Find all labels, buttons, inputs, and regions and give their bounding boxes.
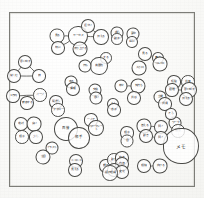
concept-node-label: 相槌	[142, 165, 147, 168]
concept-node-label: 目	[126, 140, 128, 143]
concept-node-label: 良い	[32, 123, 37, 126]
concept-node-label: ページ	[36, 94, 43, 97]
concept-node[interactable]: 少し	[29, 130, 43, 144]
concept-node-label: 聞く	[159, 137, 164, 140]
concept-node-label: ツルコミ	[155, 63, 165, 66]
concept-node-label: 遊園地	[95, 65, 102, 68]
concept-node[interactable]: 散歩する	[20, 96, 34, 110]
concept-node-label: 様々	[119, 85, 124, 88]
concept-node-label: 少し	[34, 136, 39, 139]
concept-node-label: 楽しむ	[10, 75, 17, 78]
concept-node[interactable]: 遣かい	[81, 19, 95, 33]
concept-node-label: 共感	[132, 97, 137, 100]
concept-node-label: 何も	[83, 65, 88, 68]
concept-node-label: 遣かい	[84, 25, 91, 28]
concept-node-label: 夢中	[131, 33, 136, 36]
concept-node-label: 入り口	[135, 67, 142, 70]
concept-node[interactable]: 相手	[15, 130, 29, 144]
concept-node[interactable]: ツルコミ	[153, 57, 168, 72]
concept-node[interactable]: 様々	[115, 80, 128, 93]
concept-node-label: 向ける	[156, 165, 163, 168]
concept-node[interactable]: 動き	[139, 129, 153, 143]
concept-node-label: ワークシート	[90, 125, 103, 131]
concept-node-label: そう	[169, 113, 174, 116]
concept-node[interactable]: 聞く	[154, 131, 168, 145]
concept-node-label: 相手	[20, 136, 25, 139]
concept-node-label: 答える	[140, 125, 147, 128]
concept-node-label: 息子	[112, 109, 117, 112]
concept-node-label: 盛り上げる	[74, 48, 86, 51]
concept-node-label: 思い出す	[184, 89, 194, 92]
concept-node-label: 共通	[163, 103, 168, 106]
concept-node[interactable]: 相槌	[137, 159, 151, 173]
concept-node[interactable]: 盛り上げる	[73, 42, 88, 57]
concept-node-label: 動す	[115, 38, 120, 41]
concept-node[interactable]: メモ	[163, 128, 199, 164]
concept-node-label: ねに	[130, 41, 135, 44]
concept-node[interactable]: 話題	[165, 83, 179, 97]
concept-node[interactable]: 共感	[127, 91, 141, 105]
concept-node-label: サーカス	[73, 35, 83, 38]
concept-map-canvas: 見るサーカス伝える遣かい特に盛り上げる誘う動す夢中ねに見る高々ツルコミ入り口する…	[0, 0, 204, 198]
concept-node-label: イラスト	[47, 147, 57, 150]
concept-node[interactable]: 遊園地	[90, 57, 108, 75]
concept-node[interactable]: 相手	[68, 127, 90, 149]
concept-node-label: 変化	[120, 171, 125, 174]
concept-node-label: 面接	[63, 127, 70, 130]
concept-node[interactable]: 思い出す	[18, 55, 32, 69]
concept-node-label: 相手	[76, 136, 83, 139]
concept-node[interactable]: 見える	[68, 163, 82, 177]
concept-node-label: 思い出す	[20, 61, 30, 64]
concept-node-label: 特に	[56, 47, 61, 50]
concept-node-label: 見る	[143, 53, 148, 56]
concept-node-label: フォロー	[53, 109, 63, 112]
concept-node[interactable]: 特に	[51, 41, 65, 55]
concept-node[interactable]: フォロー	[51, 103, 65, 117]
concept-node[interactable]: 思い	[90, 92, 103, 105]
concept-node-label: 話題	[170, 89, 175, 92]
concept-node[interactable]: 娘	[32, 69, 46, 83]
concept-node[interactable]: そう	[165, 108, 177, 120]
concept-node-label: 見える	[71, 169, 78, 172]
concept-node[interactable]: ページ	[33, 88, 47, 102]
concept-node[interactable]: 向ける	[153, 159, 168, 174]
concept-node[interactable]: 息子	[107, 103, 121, 117]
concept-node[interactable]: 伝える	[93, 29, 109, 45]
concept-node[interactable]: 見る	[138, 47, 152, 61]
concept-node[interactable]: 注目	[36, 150, 51, 165]
concept-node[interactable]: 情報	[66, 82, 80, 96]
concept-node-label: 1万円	[10, 95, 16, 98]
concept-node-label: 娘	[38, 75, 40, 78]
concept-node[interactable]: ワークシート	[88, 120, 104, 136]
concept-node-label: 絶対	[19, 123, 24, 126]
concept-node-label: 動き	[144, 135, 149, 138]
concept-node[interactable]: 楽しむ	[7, 69, 21, 83]
concept-node-label: 聞く	[159, 126, 164, 129]
concept-node[interactable]: 動す	[111, 33, 123, 45]
concept-node[interactable]: 話の理解	[102, 165, 118, 181]
concept-node[interactable]: 何も	[79, 60, 92, 73]
concept-node-label: 話の理解	[105, 172, 115, 175]
concept-node-label: 見る	[55, 35, 60, 38]
concept-node-label: 気持ち	[134, 85, 141, 88]
concept-node-label: 思い	[94, 97, 99, 100]
node-layer: 見るサーカス伝える遣かい特に盛り上げる誘う動す夢中ねに見る高々ツルコミ入り口する…	[0, 0, 204, 198]
concept-node-label: 伝える	[97, 36, 104, 39]
concept-node-label: 伝える	[182, 98, 189, 101]
concept-node-label: 注目	[41, 156, 46, 159]
concept-node[interactable]: 目	[121, 135, 134, 148]
concept-node-label: メモ	[177, 144, 185, 149]
concept-node[interactable]: 入り口	[132, 61, 147, 76]
concept-node-label: 散歩する	[22, 102, 32, 105]
concept-node[interactable]: 伝える	[179, 92, 193, 106]
concept-node-label: 情報	[71, 88, 76, 91]
concept-node-label: ニコニコ	[71, 160, 81, 163]
concept-node[interactable]: 1万円	[6, 89, 20, 103]
concept-node[interactable]: ねに	[126, 36, 138, 48]
